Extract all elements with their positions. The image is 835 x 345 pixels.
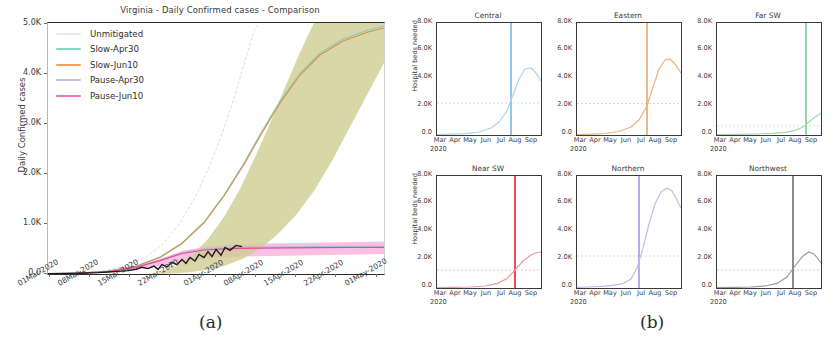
- subplot-northwest: Northwest 8.0K 6.0K 4.0K 2.0K 0.0 Mar Ap…: [716, 175, 820, 287]
- legend-swatch-slow-apr30: [56, 48, 81, 50]
- subplot-near-sw-ytick-8k: 8.0K: [406, 170, 432, 178]
- legend-swatch-slow-jun10: [56, 64, 81, 66]
- panel-a-ytick-5: 5.0K: [5, 18, 41, 27]
- legend-label-pause-apr30: Pause-Apr30: [90, 75, 144, 85]
- subplot-title-northwest: Northwest: [716, 164, 820, 173]
- subplot-near-sw-year: 2020: [430, 298, 447, 306]
- subplot-central-ytick-8k: 8.0K: [406, 17, 432, 25]
- legend-swatch-pause-jun10: [56, 95, 81, 97]
- subplot-title-eastern: Eastern: [576, 11, 680, 20]
- subplot-northwest-ytick-0: 0.0: [686, 281, 712, 289]
- subplot-eastern-xtick-sep: Sep: [661, 136, 681, 144]
- legend-label-unmitigated: Unmitigated: [90, 29, 143, 39]
- subplot-central-xtick-sep: Sep: [521, 136, 541, 144]
- legend-label-slow-jun10: Slow-Jun10: [90, 60, 138, 70]
- subplot-box-far-sw: [716, 22, 822, 136]
- subplot-northwest-xtick-sep: Sep: [801, 289, 821, 297]
- subplot-northwest-year: 2020: [710, 298, 727, 306]
- subplot-box-northern: [576, 175, 682, 289]
- subplot-northwest-ytick-4k: 4.0K: [686, 225, 712, 233]
- subplot-far-sw: Far SW 8.0K 6.0K 4.0K 2.0K 0.0 Mar Apr M…: [716, 22, 820, 134]
- subplot-central-ytick-6k: 6.0K: [406, 44, 432, 52]
- subplot-northern-ytick-6k: 6.0K: [546, 197, 572, 205]
- subplot-near-sw-ytick-6k: 6.0K: [406, 197, 432, 205]
- subplot-eastern-ytick-8k: 8.0K: [546, 17, 572, 25]
- legend-swatch-unmitigated: [56, 33, 81, 35]
- subplot-northwest-ytick-2k: 2.0K: [686, 253, 712, 261]
- subplot-far-sw-year: 2020: [710, 145, 727, 153]
- panel-a-daily-cases: Virginia - Daily Confirmed cases - Compa…: [0, 0, 400, 345]
- subplot-northwest-ytick-8k: 8.0K: [686, 170, 712, 178]
- subplot-far-sw-ytick-8k: 8.0K: [686, 17, 712, 25]
- legend-swatch-pause-apr30: [56, 79, 81, 81]
- subplot-far-sw-ytick-4k: 4.0K: [686, 72, 712, 80]
- legend-item-unmitigated[interactable]: Unmitigated: [56, 26, 206, 42]
- subplot-box-northwest: [716, 175, 822, 289]
- subplot-central-ytick-2k: 2.0K: [406, 100, 432, 108]
- subplot-central: Central 8.0K 6.0K 4.0K 2.0K 0.0 Mar Apr …: [436, 22, 540, 134]
- subplot-northern-ytick-4k: 4.0K: [546, 225, 572, 233]
- subplot-box-central: [436, 22, 542, 136]
- subplot-near-sw-xtick-sep: Sep: [521, 289, 541, 297]
- subplot-title-far-sw: Far SW: [716, 11, 820, 20]
- panel-a-ytick-2: 2.0K: [5, 168, 41, 177]
- subfigure-caption-b: (b): [640, 312, 664, 332]
- subplot-central-ytick-0: 0.0: [406, 128, 432, 136]
- subplot-near-sw: Near SW 8.0K 6.0K 4.0K 2.0K 0.0 Mar Apr …: [436, 175, 540, 287]
- subplot-title-near-sw: Near SW: [436, 164, 540, 173]
- subplot-title-central: Central: [436, 11, 540, 20]
- panel-a-ytick-3: 3.0K: [5, 118, 41, 127]
- legend-label-pause-jun10: Pause-Jun10: [90, 91, 143, 101]
- figure-root: Virginia - Daily Confirmed cases - Compa…: [0, 0, 835, 345]
- legend-item-pause-jun10[interactable]: Pause-Jun10: [56, 88, 206, 104]
- subplot-central-year: 2020: [430, 145, 447, 153]
- subplot-title-northern: Northern: [576, 164, 680, 173]
- legend-label-slow-apr30: Slow-Apr30: [90, 44, 139, 54]
- subplot-far-sw-ytick-0: 0.0: [686, 128, 712, 136]
- subplot-near-sw-ytick-2k: 2.0K: [406, 253, 432, 261]
- subplot-northern-year: 2020: [570, 298, 587, 306]
- legend-item-slow-apr30[interactable]: Slow-Apr30: [56, 42, 206, 58]
- subplot-eastern-ytick-0: 0.0: [546, 128, 572, 136]
- subplot-far-sw-xtick-sep: Sep: [801, 136, 821, 144]
- subplot-far-sw-ytick-2k: 2.0K: [686, 100, 712, 108]
- panel-a-legend: Unmitigated Slow-Apr30 Slow-Jun10 Pause-…: [56, 26, 206, 104]
- legend-item-pause-apr30[interactable]: Pause-Apr30: [56, 73, 206, 89]
- subplot-box-near-sw: [436, 175, 542, 289]
- legend-item-slow-jun10[interactable]: Slow-Jun10: [56, 57, 206, 73]
- subplot-near-sw-ytick-4k: 4.0K: [406, 225, 432, 233]
- subplot-far-sw-ytick-6k: 6.0K: [686, 44, 712, 52]
- subplot-northern-ytick-8k: 8.0K: [546, 170, 572, 178]
- subplot-eastern-ytick-6k: 6.0K: [546, 44, 572, 52]
- subplot-eastern: Eastern 8.0K 6.0K 4.0K 2.0K 0.0 Mar Apr …: [576, 22, 680, 134]
- subplot-central-ytick-4k: 4.0K: [406, 72, 432, 80]
- subplot-eastern-ytick-4k: 4.0K: [546, 72, 572, 80]
- subplot-northern-ytick-2k: 2.0K: [546, 253, 572, 261]
- subplot-northern-ytick-0: 0.0: [546, 281, 572, 289]
- subplot-eastern-year: 2020: [570, 145, 587, 153]
- panel-a-ytick-1: 1.0K: [5, 218, 41, 227]
- subfigure-caption-a: (a): [199, 312, 222, 332]
- subplot-near-sw-ytick-0: 0.0: [406, 281, 432, 289]
- subplot-box-eastern: [576, 22, 682, 136]
- panel-a-title: Virginia - Daily Confirmed cases - Compa…: [100, 5, 340, 15]
- panel-b-hospital-beds: Hospital beds needed Hospital beds neede…: [400, 0, 835, 345]
- panel-a-ytick-4: 4.0K: [5, 68, 41, 77]
- subplot-northern: Northern 8.0K 6.0K 4.0K 2.0K 0.0 Mar Apr…: [576, 175, 680, 287]
- subplot-northwest-ytick-6k: 6.0K: [686, 197, 712, 205]
- subplot-northern-xtick-sep: Sep: [661, 289, 681, 297]
- subplot-eastern-ytick-2k: 2.0K: [546, 100, 572, 108]
